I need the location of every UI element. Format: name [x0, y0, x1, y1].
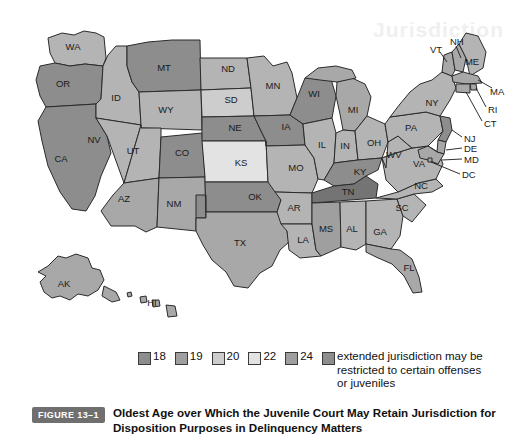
- state-label-MD: MD: [464, 154, 479, 165]
- state-label-DE: DE: [464, 143, 477, 154]
- state-CO[interactable]: [159, 133, 205, 178]
- state-HI-2[interactable]: [140, 296, 147, 303]
- state-MA[interactable]: [452, 72, 482, 84]
- state-RI[interactable]: [470, 84, 477, 90]
- state-AK-tail[interactable]: [102, 286, 120, 302]
- legend-label-18: 18: [153, 350, 166, 364]
- figure-caption-text: Oldest Age over Which the Juvenile Court…: [113, 406, 502, 435]
- state-label-DC: DC: [462, 169, 476, 180]
- leader-CT: [466, 92, 482, 121]
- legend-item-extended-jurisdiction[interactable]: extended jurisdiction may be restricted …: [322, 350, 487, 391]
- state-MS[interactable]: [312, 202, 341, 256]
- state-AK[interactable]: [38, 254, 104, 300]
- state-KS[interactable]: [202, 141, 268, 182]
- state-label-NJ: NJ: [464, 133, 476, 144]
- legend-swatch-18: [138, 352, 151, 365]
- legend-swatch-20: [212, 352, 225, 365]
- state-AR[interactable]: [275, 192, 312, 224]
- map-legend: 1819202224 extended jurisdiction may be …: [138, 350, 487, 391]
- state-TX[interactable]: [196, 212, 289, 288]
- state-label-RI: RI: [488, 104, 498, 115]
- state-WA[interactable]: [48, 31, 106, 66]
- state-AL[interactable]: [340, 201, 366, 250]
- state-WY[interactable]: [139, 90, 202, 130]
- legend-swatch-19: [175, 352, 188, 365]
- leader-RI: [476, 88, 486, 107]
- legend-item-20[interactable]: 20: [212, 350, 240, 365]
- state-OR[interactable]: [36, 63, 103, 107]
- legend-label-20: 20: [227, 350, 240, 364]
- leader-NJ: [452, 130, 462, 137]
- legend-label-24: 24: [300, 350, 313, 364]
- figure-container: Jurisdiction: [0, 0, 522, 443]
- legend-swatch-22: [248, 352, 261, 365]
- legend-label-19: 19: [190, 350, 203, 364]
- state-NY[interactable]: [390, 72, 456, 117]
- leader-MA: [478, 80, 492, 88]
- legend-item-list: 1819202224: [138, 350, 322, 365]
- figure-caption-row: FIGURE 13–1 Oldest Age over Which the Ju…: [32, 406, 502, 435]
- state-HI-4[interactable]: [166, 305, 177, 317]
- state-DC[interactable]: [428, 158, 432, 162]
- state-MT[interactable]: [127, 40, 201, 92]
- state-CT[interactable]: [456, 84, 470, 93]
- legend-item-19[interactable]: 19: [175, 350, 203, 365]
- leader-DE: [446, 148, 462, 150]
- legend-label-22: 22: [263, 350, 276, 364]
- us-map-svg: WAORCAIDNVMTWYUTCOAZNMNDSDNEKSOKTXMNIAMO…: [0, 0, 522, 340]
- state-MN[interactable]: [247, 56, 297, 116]
- legend-item-22[interactable]: 22: [248, 350, 276, 365]
- legend-item-18[interactable]: 18: [138, 350, 166, 365]
- state-GA[interactable]: [366, 199, 403, 249]
- legend-label-extended: extended jurisdiction may be restricted …: [337, 350, 487, 391]
- state-SD[interactable]: [201, 88, 254, 117]
- legend-swatch-extended: [322, 352, 335, 365]
- state-ND[interactable]: [200, 58, 251, 90]
- state-IN[interactable]: [334, 130, 358, 163]
- legend-swatch-24: [285, 352, 298, 365]
- choropleth-map: WAORCAIDNVMTWYUTCOAZNMNDSDNEKSOKTXMNIAMO…: [0, 0, 522, 340]
- state-FL[interactable]: [366, 244, 422, 293]
- legend-item-24[interactable]: 24: [285, 350, 313, 365]
- leader-MD: [442, 159, 462, 160]
- state-AZ[interactable]: [101, 178, 159, 232]
- state-label-MA: MA: [490, 86, 505, 97]
- state-label-CT: CT: [484, 118, 497, 129]
- state-HI-3[interactable]: [152, 300, 160, 307]
- figure-number-badge: FIGURE 13–1: [32, 407, 105, 423]
- state-HI-1[interactable]: [127, 292, 132, 297]
